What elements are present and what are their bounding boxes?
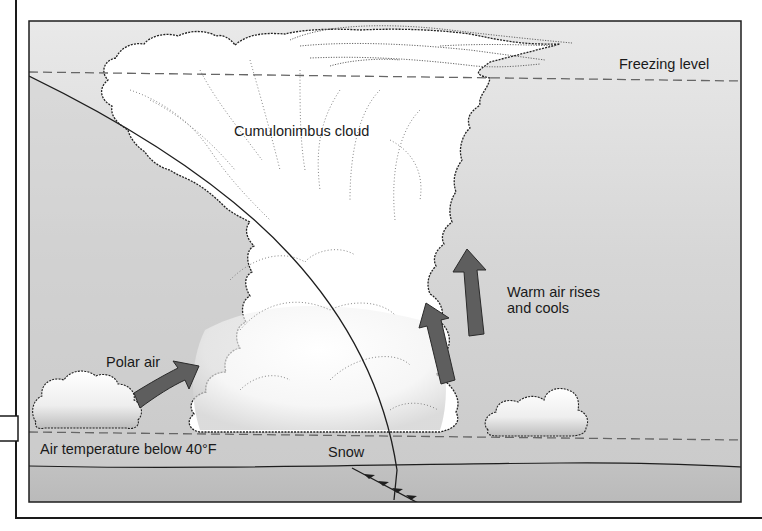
warm-air-label-line1: Warm air rises bbox=[507, 284, 600, 301]
polar-air-label: Polar air bbox=[106, 354, 160, 371]
diagram-scene bbox=[29, 21, 741, 504]
cumulonimbus-diagram: Cumulonimbus cloud Freezing level Warm a… bbox=[0, 0, 762, 531]
side-tab bbox=[0, 416, 18, 441]
cumulonimbus-cloud-label: Cumulonimbus cloud bbox=[234, 123, 369, 140]
cloud-tower-shading bbox=[193, 306, 446, 430]
freezing-level-label: Freezing level bbox=[619, 56, 709, 73]
snow-label: Snow bbox=[328, 444, 364, 461]
air-temperature-label: Air temperature below 40°F bbox=[40, 441, 217, 458]
warm-air-label-line2: and cools bbox=[507, 300, 569, 317]
